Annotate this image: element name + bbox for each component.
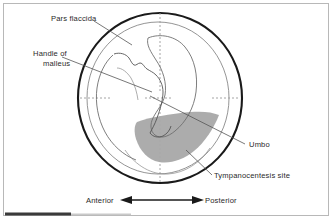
label-umbo: Umbo [249,140,270,149]
label-handle-of-malleus-line2: malleus [43,59,70,68]
label-handle-of-malleus-line1: Handle of [33,49,68,58]
dark-bar-artifact-icon [5,213,71,216]
label-tympanocentesis-site: Tympanocentesis site [214,171,290,180]
label-pars-flaccida: Pars flaccida [51,14,97,23]
tympanic-membrane-figure: Pars flaccida Handle of malleus Umbo Tym… [0,0,333,221]
diagram-canvas: Pars flaccida Handle of malleus Umbo Tym… [0,0,333,221]
label-posterior: Posterior [205,196,237,205]
scan-artifact-fade [71,214,131,216]
label-anterior: Anterior [86,196,114,205]
